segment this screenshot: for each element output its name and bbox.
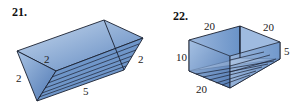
- figure-21-prism: 2 2 2 5: [16, 20, 144, 101]
- box-label-bottom: 20: [196, 83, 208, 95]
- prism-label-right: 2: [138, 53, 144, 65]
- box-label-right-height: 5: [284, 45, 290, 57]
- box-label-height: 10: [176, 51, 188, 63]
- prism-label-length: 5: [83, 85, 89, 97]
- box-label-top-right: 20: [263, 21, 275, 33]
- prism-label-top: 2: [44, 53, 50, 65]
- box-label-top-left: 20: [204, 20, 216, 32]
- prism-label-left: 2: [16, 72, 22, 84]
- figure-22-box: 20 20 10 5 20: [176, 20, 290, 95]
- figures-canvas: 2 2 2 5 20 20 10 5 20: [0, 0, 301, 111]
